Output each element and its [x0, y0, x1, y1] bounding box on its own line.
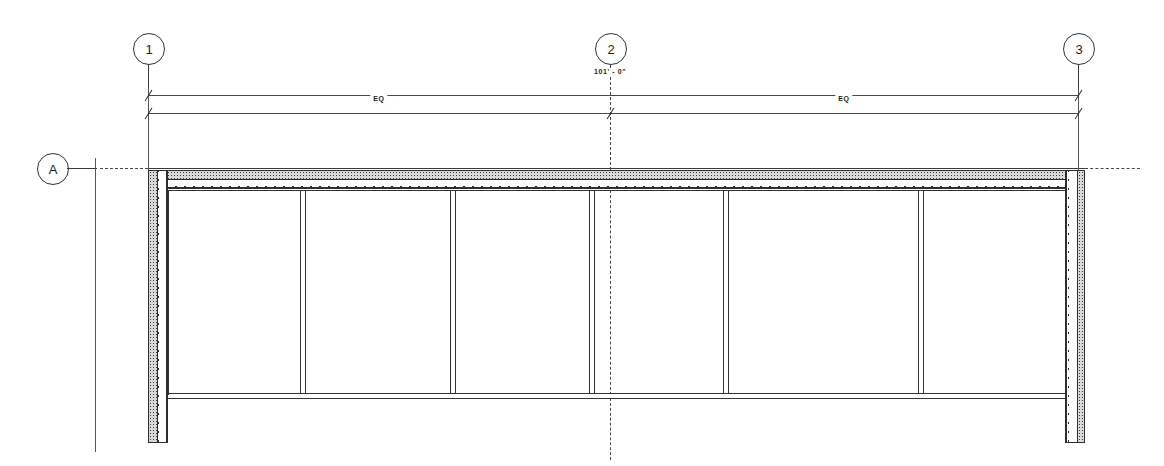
- dimension-text-eq-left: EQ: [370, 95, 387, 102]
- interior-partition-5: [918, 190, 924, 395]
- wall-hatch-zigzag-top: [149, 180, 1084, 187]
- exterior-wall-left: [148, 170, 168, 443]
- dimension-line-overall: [148, 95, 1078, 96]
- interior-partition-4: [723, 190, 729, 395]
- exterior-wall-top: [148, 170, 1085, 189]
- gridline-2-interior: [610, 190, 611, 395]
- dimension-text-eq-right: EQ: [835, 95, 852, 102]
- drawing-canvas: 1 2 3 A 101' - 0" EQ EQ: [0, 0, 1164, 466]
- gridline-A-left: [100, 168, 148, 169]
- gridline-2-upper: [610, 72, 611, 170]
- wall-hatch-stipple-left: [149, 171, 157, 442]
- interior-left-face-line: [168, 190, 169, 395]
- grid-bubble-3[interactable]: 3: [1063, 33, 1095, 65]
- wall-rule-top-2: [149, 187, 1084, 188]
- grid-bubble-3-label: 3: [1075, 43, 1082, 56]
- gridline-A-right: [1085, 168, 1140, 169]
- extension-line-grid-3: [1078, 88, 1079, 174]
- wall-hatch-zigzag-left: [158, 171, 166, 442]
- wall-hatch-zigzag-right: [1068, 171, 1076, 442]
- interior-cross-wall: [168, 393, 1065, 399]
- wall-hatch-stipple-top: [149, 171, 1084, 179]
- grid-bubble-1[interactable]: 1: [133, 33, 165, 65]
- interior-top-face-line: [168, 190, 1065, 191]
- exterior-wall-right: [1065, 170, 1085, 443]
- extension-line-left: [95, 158, 96, 452]
- grid-bubble-A-stem: [67, 168, 97, 169]
- extension-line-grid-1: [148, 88, 149, 174]
- gridline-A-through-building: [148, 168, 1085, 169]
- wall-hatch-stipple-right: [1078, 171, 1085, 442]
- interior-partition-2: [450, 190, 456, 395]
- gridline-2-lower: [610, 398, 611, 460]
- interior-partition-3: [589, 190, 595, 395]
- wall-rule-left-2: [166, 171, 167, 442]
- grid-bubble-2-label: 2: [607, 43, 614, 56]
- grid-bubble-A-label: A: [49, 163, 58, 176]
- interior-partition-1: [300, 190, 306, 395]
- wall-rule-right-1: [1066, 171, 1067, 442]
- dimension-text-overall: 101' - 0": [591, 68, 629, 75]
- grid-bubble-1-label: 1: [145, 43, 152, 56]
- interior-right-face-line: [1065, 190, 1066, 395]
- grid-bubble-A[interactable]: A: [37, 153, 69, 185]
- grid-bubble-2[interactable]: 2: [595, 33, 627, 65]
- dimension-line-eq: [148, 113, 1078, 114]
